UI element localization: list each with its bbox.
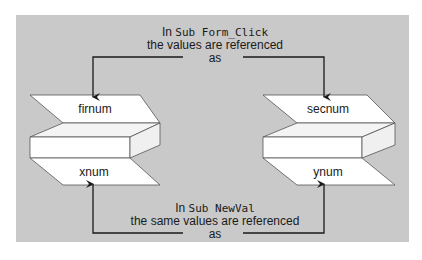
- xnum-label: xnum: [44, 165, 144, 179]
- firnum-label: firnum: [45, 102, 145, 116]
- bottom-caption-line3: as: [120, 228, 310, 241]
- shared-memory-box-front: [30, 137, 130, 158]
- bottom-caption: In Sub NewVal the same values are refere…: [120, 202, 310, 241]
- top-caption: In Sub Form_Click the values are referen…: [130, 26, 300, 65]
- bottom-caption-prefix: In: [175, 201, 185, 215]
- ynum-label: ynum: [278, 165, 378, 179]
- top-caption-line3: as: [130, 52, 300, 65]
- shared-memory-box-front: [263, 137, 362, 158]
- secnum-label: secnum: [278, 102, 378, 116]
- top-caption-prefix: In: [162, 25, 172, 39]
